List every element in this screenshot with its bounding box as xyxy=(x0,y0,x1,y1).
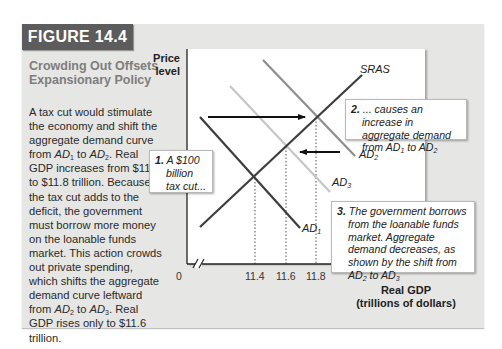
annotation-ad: AD xyxy=(419,141,434,153)
annotation-text: The government borrows from the loanable… xyxy=(348,205,467,268)
ad3-curve xyxy=(230,86,330,192)
annotation-text: to xyxy=(367,269,381,281)
annotation-sub: 3 xyxy=(396,275,400,282)
annotation-box-1: 1. A $100 billion tax cut... xyxy=(149,150,213,193)
annotation-ad: AD xyxy=(386,141,401,153)
annotation-sub: 2 xyxy=(433,147,437,154)
annotation-ad: AD xyxy=(381,269,396,281)
x-label-line: Real GDP xyxy=(336,284,476,297)
x-label-line: (trillions of dollars) xyxy=(336,297,476,310)
annotation-text: to xyxy=(404,141,418,153)
x-tick-0: 0 xyxy=(176,270,182,282)
ad-sub: 3 xyxy=(347,182,351,189)
ad-text: AD xyxy=(302,222,317,234)
x-tick-11-6: 11.6 xyxy=(276,270,296,282)
x-axis-label: Real GDP (trillions of dollars) xyxy=(336,284,476,310)
ad1-curve xyxy=(200,117,300,228)
ad-text: AD xyxy=(332,176,347,188)
ad2-curve xyxy=(263,60,355,156)
ad-sub: 1 xyxy=(317,228,321,235)
x-tick-11-8: 11.8 xyxy=(306,270,326,282)
annotation-text: A $100 billion tax cut... xyxy=(166,154,206,192)
annotation-number: 1. xyxy=(155,154,164,166)
ad3-label: AD3 xyxy=(332,176,351,188)
annotation-ad: AD xyxy=(348,269,363,281)
ad1-label: AD1 xyxy=(302,222,321,234)
sras-label: SRAS xyxy=(360,63,390,75)
y-axis-label: Price level xyxy=(140,52,180,77)
y-label-line: level xyxy=(140,65,180,78)
annotation-number: 2. xyxy=(351,103,360,115)
x-tick-11-4: 11.4 xyxy=(245,270,265,282)
y-label-line: Price xyxy=(140,52,180,65)
annotation-box-3: 3. The government borrows from the loana… xyxy=(331,201,475,273)
ad-sub: 2 xyxy=(374,154,378,161)
annotation-box-2: 2. ... causes an increase in aggregate d… xyxy=(345,99,467,140)
annotation-number: 3. xyxy=(337,205,346,217)
